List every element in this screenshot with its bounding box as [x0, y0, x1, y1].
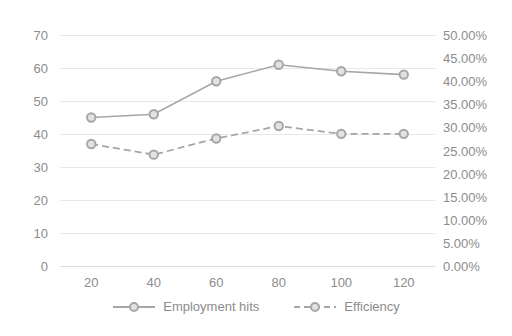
- y-right-tick-label: 0.00%: [443, 260, 480, 273]
- y-left-tick-label: 20: [34, 194, 48, 207]
- data-point-marker: [150, 150, 158, 158]
- y-right-tick-label: 50.00%: [443, 29, 487, 42]
- y-left-tick-label: 30: [34, 161, 48, 174]
- y-left-tick-label: 0: [41, 260, 48, 273]
- y-right-tick-label: 45.00%: [443, 52, 487, 65]
- data-point-marker: [400, 70, 408, 78]
- gridline: [60, 266, 435, 267]
- line-chart: 706050403020100 50.00%45.00%40.00%35.00%…: [0, 0, 512, 336]
- chart-legend: Employment hitsEfficiency: [0, 300, 512, 313]
- y-right-tick-label: 40.00%: [443, 75, 487, 88]
- y-left-tick-label: 70: [34, 29, 48, 42]
- y-right-tick-label: 15.00%: [443, 190, 487, 203]
- legend-item[interactable]: Employment hits: [112, 300, 259, 313]
- y-axis-left: 706050403020100: [0, 35, 48, 266]
- x-tick-label: 120: [393, 276, 415, 289]
- legend-label: Efficiency: [344, 300, 399, 313]
- data-point-marker: [337, 67, 345, 75]
- data-point-marker: [150, 110, 158, 118]
- x-tick-label: 20: [84, 276, 98, 289]
- data-point-marker: [275, 61, 283, 69]
- plot-area: [60, 35, 435, 266]
- x-tick-label: 80: [272, 276, 286, 289]
- y-left-tick-label: 50: [34, 95, 48, 108]
- legend-item[interactable]: Efficiency: [293, 300, 399, 313]
- series-line: [91, 65, 404, 118]
- y-right-tick-label: 25.00%: [443, 144, 487, 157]
- series-layer: [60, 35, 435, 266]
- data-point-marker: [400, 130, 408, 138]
- legend-swatch-icon: [112, 301, 156, 313]
- y-left-tick-label: 40: [34, 128, 48, 141]
- y-right-tick-label: 30.00%: [443, 121, 487, 134]
- y-left-tick-label: 60: [34, 62, 48, 75]
- x-tick-label: 100: [330, 276, 352, 289]
- y-left-tick-label: 10: [34, 227, 48, 240]
- x-tick-label: 40: [147, 276, 161, 289]
- legend-label: Employment hits: [163, 300, 259, 313]
- data-point-marker: [212, 77, 220, 85]
- y-right-tick-label: 20.00%: [443, 167, 487, 180]
- series-line: [91, 126, 404, 155]
- y-right-tick-label: 35.00%: [443, 98, 487, 111]
- data-point-marker: [337, 130, 345, 138]
- data-point-marker: [275, 122, 283, 130]
- data-point-marker: [87, 140, 95, 148]
- y-right-tick-label: 5.00%: [443, 236, 480, 249]
- y-right-tick-label: 10.00%: [443, 213, 487, 226]
- x-tick-label: 60: [209, 276, 223, 289]
- data-point-marker: [212, 134, 220, 142]
- legend-swatch-icon: [293, 301, 337, 313]
- y-axis-right: 50.00%45.00%40.00%35.00%30.00%25.00%20.0…: [443, 35, 509, 266]
- data-point-marker: [87, 113, 95, 121]
- x-axis: 20406080100120: [60, 276, 435, 296]
